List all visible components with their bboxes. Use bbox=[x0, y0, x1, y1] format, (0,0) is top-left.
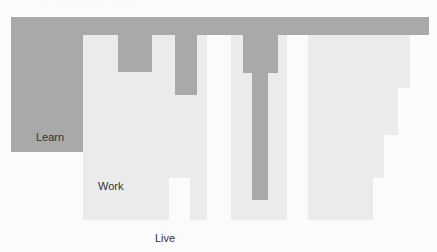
work-region-right-1 bbox=[308, 35, 410, 88]
work-label: Work bbox=[98, 180, 123, 192]
cutoff-title: · · · ··· ··· ·· ·· ···· bbox=[40, 0, 136, 5]
learn-stem bbox=[252, 73, 268, 200]
learn-notch-3 bbox=[243, 35, 278, 73]
live-notch bbox=[169, 178, 190, 220]
live-label: Live bbox=[155, 232, 175, 244]
work-region-right-4 bbox=[308, 178, 373, 220]
learn-notch-1 bbox=[118, 35, 152, 72]
learn-label: Learn bbox=[36, 131, 64, 143]
work-region-right-3 bbox=[308, 135, 384, 178]
learn-notch-2 bbox=[175, 35, 197, 95]
learn-top-band bbox=[11, 17, 429, 35]
work-region-right-2 bbox=[308, 88, 398, 135]
